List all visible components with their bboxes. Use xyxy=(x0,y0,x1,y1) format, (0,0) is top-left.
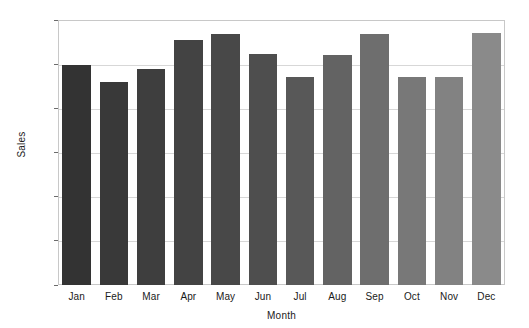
bar-jun[interactable] xyxy=(249,54,277,285)
x-tick-label-aug: Aug xyxy=(319,291,356,302)
bar-nov[interactable] xyxy=(435,77,463,285)
x-tick-label-mar: Mar xyxy=(133,291,170,302)
x-tick-label-dec: Dec xyxy=(468,291,505,302)
x-axis-label: Month xyxy=(58,310,505,321)
y-axis-label: Sales xyxy=(16,115,27,175)
x-tick-label-sep: Sep xyxy=(356,291,393,302)
bar-chart: Sales 020040060080010001200 JanFebMarApr… xyxy=(0,0,529,328)
bar-jul[interactable] xyxy=(286,77,314,285)
bar-may[interactable] xyxy=(211,34,239,285)
bars-container xyxy=(58,20,505,285)
bar-jan[interactable] xyxy=(62,65,90,285)
x-tick-label-feb: Feb xyxy=(95,291,132,302)
x-tick-label-oct: Oct xyxy=(393,291,430,302)
bar-aug[interactable] xyxy=(323,55,351,285)
x-tick-label-may: May xyxy=(207,291,244,302)
bar-apr[interactable] xyxy=(174,40,202,285)
bar-sep[interactable] xyxy=(360,34,388,285)
bar-feb[interactable] xyxy=(100,82,128,285)
bar-mar[interactable] xyxy=(137,69,165,285)
x-tick-label-apr: Apr xyxy=(170,291,207,302)
x-tick-label-jan: Jan xyxy=(58,291,95,302)
x-tick-label-nov: Nov xyxy=(431,291,468,302)
x-tick-label-jul: Jul xyxy=(282,291,319,302)
bar-oct[interactable] xyxy=(398,77,426,285)
bar-dec[interactable] xyxy=(472,33,500,285)
x-tick-label-jun: Jun xyxy=(244,291,281,302)
